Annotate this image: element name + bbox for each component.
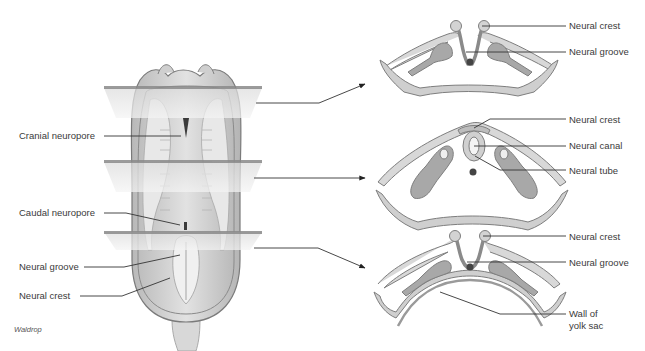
section-plane-bottom: [104, 231, 262, 250]
label-caudal-neuropore: Caudal neuropore: [19, 207, 95, 218]
illustrator-credit: Waldrop: [14, 325, 42, 334]
label-cranial-neuropore: Cranial neuropore: [19, 130, 95, 141]
label-middle-neural-tube: Neural tube: [569, 165, 618, 176]
cross-section-middle: [376, 123, 568, 231]
label-bottom-yolk-sac: yolk sac: [569, 320, 603, 331]
label-top-neural-crest: Neural crest: [569, 20, 620, 31]
section-arrows: [254, 84, 365, 268]
section-plane-middle: [104, 160, 262, 192]
diagram-artwork: [0, 0, 645, 351]
neural-tube-diagram: Cranial neuropore Caudal neuropore Neura…: [0, 0, 645, 351]
cross-section-bottom: [374, 231, 566, 327]
label-bottom-wall-of: Wall of: [569, 308, 598, 319]
label-bottom-neural-crest: Neural crest: [569, 231, 620, 242]
cross-section-top: [380, 21, 558, 97]
label-middle-neural-canal: Neural canal: [569, 140, 622, 151]
label-neural-crest-embryo: Neural crest: [19, 290, 70, 301]
label-middle-neural-crest: Neural crest: [569, 114, 620, 125]
label-neural-groove-embryo: Neural groove: [19, 261, 79, 272]
label-bottom-neural-groove: Neural groove: [569, 257, 629, 268]
section-plane-top: [104, 86, 262, 118]
label-top-neural-groove: Neural groove: [569, 46, 629, 57]
